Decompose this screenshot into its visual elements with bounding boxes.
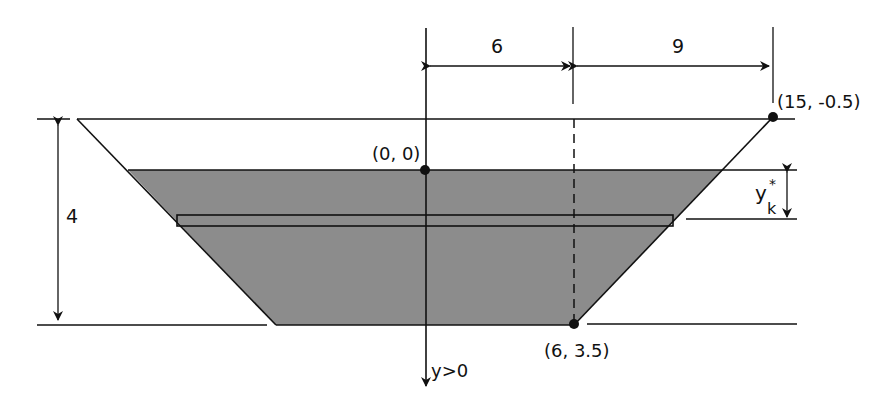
label-origin: (0, 0) [372,143,420,164]
label-strip-depth-sub: k [767,199,777,218]
label-top-right: (15, -0.5) [777,91,861,112]
fluid-region [128,170,722,325]
point-top-right [768,112,778,122]
label-y-axis: y>0 [431,360,468,381]
label-strip-depth-base: y [755,181,767,205]
label-dim-9: 9 [672,35,684,57]
label-dim-4: 4 [66,205,78,227]
label-dim-6: 6 [491,35,503,57]
label-strip-depth: y [755,181,767,205]
point-origin [420,165,430,175]
point-bottom-right [569,319,579,329]
label-strip-depth-sup: * [769,176,776,192]
trough-diagram: 6 9 4 (0, 0) (15, -0.5) (6, 3.5) y>0 y k… [0,0,893,407]
label-bottom-right: (6, 3.5) [544,340,610,361]
